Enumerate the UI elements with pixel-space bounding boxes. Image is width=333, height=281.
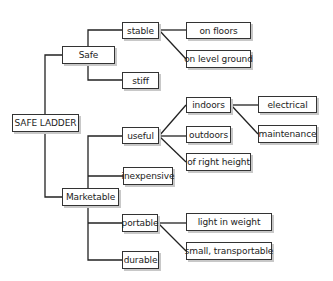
edge-marketable-durable: [88, 206, 122, 260]
edge-marketable-useful: [88, 136, 122, 188]
edge-portable-small: [158, 223, 186, 251]
edge-safe-stable: [88, 30, 122, 46]
node-on-floors: on floors: [186, 22, 251, 39]
node-on-level-ground: on level ground: [186, 50, 251, 68]
node-safe-ladder: SAFE LADDER: [12, 114, 79, 132]
edge-useful-indoors: [159, 105, 186, 136]
node-inexpensive: inexpensive: [123, 167, 173, 185]
node-light-in-weight: light in weight: [186, 213, 272, 231]
node-safe: Safe: [62, 46, 115, 64]
node-stiff: stiff: [122, 72, 159, 89]
edge-safe-stiff: [88, 64, 122, 80]
node-of-right-height: of right height: [186, 153, 251, 171]
node-small-transportable: small, transportable: [186, 242, 272, 260]
edge-indoors-maintenance: [231, 105, 258, 134]
node-useful: useful: [122, 127, 159, 144]
node-outdoors: outdoors: [186, 126, 231, 143]
node-durable: durable: [122, 251, 159, 269]
node-indoors: indoors: [186, 97, 231, 113]
node-stable: stable: [122, 22, 159, 39]
edge-useful-right-height: [159, 136, 186, 162]
node-electrical: electrical: [258, 96, 317, 113]
node-maintenance: maintenance: [258, 125, 317, 143]
node-portable: portable: [122, 214, 158, 232]
edge-stable-on-level-ground: [159, 30, 186, 59]
edge-root-marketable: [45, 132, 62, 197]
node-marketable: Marketable: [62, 188, 119, 206]
edge-root-safe: [45, 55, 62, 123]
